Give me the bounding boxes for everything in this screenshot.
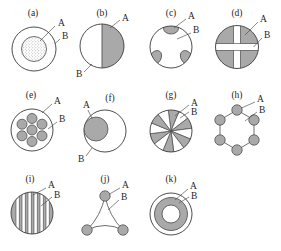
inner-circle-center [27, 125, 37, 135]
label-b: B [259, 105, 265, 115]
node-circle-top [232, 105, 242, 115]
hexagon-link-path [220, 110, 254, 150]
inner-circle-4 [27, 137, 37, 147]
stripe-4 [34, 191, 37, 235]
label-a: A [58, 18, 65, 28]
panel-caption-i: (i) [26, 174, 35, 185]
label-b: B [191, 107, 197, 117]
inner-circle-1 [27, 114, 37, 124]
panel-caption-f: (f) [105, 93, 115, 104]
panel-caption-a: (a) [28, 8, 39, 19]
label-b: B [76, 69, 82, 79]
inner-circle-6 [17, 119, 27, 129]
leader-line-a [42, 104, 52, 113]
node-circle-upper-right [249, 115, 259, 125]
leader-line-a [110, 20, 120, 28]
cross-center-white [234, 44, 240, 50]
panel-g: (g) A B [141, 84, 213, 166]
label-b: B [121, 192, 127, 202]
inner-circle-2 [37, 119, 47, 129]
inner-circle-3 [37, 131, 47, 141]
inner-core-white [162, 205, 180, 223]
label-a: A [260, 14, 267, 24]
panel-i: (i) A B [2, 168, 74, 250]
wedge-group [149, 109, 193, 153]
panel-caption-g: (g) [165, 90, 176, 101]
leader-line-a [242, 102, 256, 108]
label-b: B [62, 31, 68, 41]
leader-line-b [86, 148, 92, 156]
label-a: A [257, 94, 264, 104]
panel-e: (e) A B [2, 84, 74, 166]
label-b: B [264, 30, 270, 40]
panel-c: (c) A B [141, 2, 213, 80]
label-b: B [54, 190, 60, 200]
panel-k: (k) A B [141, 168, 213, 250]
lens-bottom-left [147, 48, 164, 67]
node-circle-upper-left [215, 115, 225, 125]
panel-f: (f) A B [72, 84, 144, 166]
stripe-2 [22, 191, 25, 235]
panel-caption-c: (c) [166, 8, 177, 19]
offset-shaded-circle [84, 117, 108, 141]
node-circle-bottom-right [118, 225, 128, 235]
label-b: B [59, 114, 65, 124]
panel-caption-b: (b) [96, 8, 107, 19]
panel-b: (b) A B [72, 2, 144, 80]
leader-line-a [174, 19, 186, 28]
leader-line-b [84, 64, 92, 72]
stripe-5 [40, 191, 43, 235]
leader-line-a [110, 188, 121, 194]
panel-caption-h: (h) [231, 90, 242, 101]
leader-line-b [108, 200, 119, 210]
label-b: B [193, 25, 199, 35]
panel-j: (j) A B [72, 168, 144, 250]
panel-caption-e: (e) [26, 90, 37, 101]
label-b: B [78, 154, 84, 164]
node-circle-bottom [232, 145, 242, 155]
label-a: A [122, 13, 129, 23]
inner-circle-5 [17, 131, 27, 141]
label-a: A [48, 180, 55, 190]
lens-bottom-right [178, 48, 195, 67]
figure-root: (a) A B (b) A B (c) [0, 0, 281, 251]
panel-d: (d) A B [209, 2, 281, 80]
leader-line-b [55, 39, 61, 44]
label-a: A [190, 181, 197, 191]
stippled-inner-circle [22, 37, 47, 62]
label-a: A [122, 180, 129, 190]
label-a: A [188, 11, 195, 21]
leader-line-a [175, 189, 188, 200]
node-circle-lower-right [249, 135, 259, 145]
panel-h: (h) A B [209, 84, 281, 166]
panel-caption-k: (k) [165, 174, 176, 185]
lens-top [164, 23, 179, 34]
node-circle-lower-left [215, 135, 225, 145]
label-b: B [191, 191, 197, 201]
panel-caption-j: (j) [101, 174, 110, 185]
node-circle-bottom-left [82, 225, 92, 235]
panel-caption-d: (d) [231, 8, 242, 19]
panel-a: (a) A B [2, 2, 74, 80]
node-circle-top [100, 191, 110, 201]
stripe-3 [28, 191, 31, 235]
label-a: A [54, 96, 61, 106]
label-a: A [83, 100, 90, 110]
